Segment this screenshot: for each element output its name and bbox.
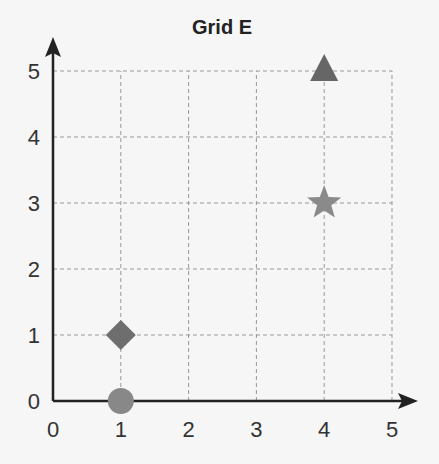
x-tick-label: 0 xyxy=(47,417,59,442)
x-tick-label: 1 xyxy=(115,417,127,442)
y-tick-labels: 012345 xyxy=(28,59,40,414)
chart-title: Grid E xyxy=(192,16,252,38)
y-tick-label: 5 xyxy=(28,59,40,84)
grid-lines xyxy=(53,71,392,401)
axes xyxy=(45,37,418,409)
data-points xyxy=(106,54,341,414)
diamond-marker-icon xyxy=(106,320,136,350)
x-tick-label: 5 xyxy=(386,417,398,442)
x-tick-label: 4 xyxy=(318,417,330,442)
x-tick-label: 3 xyxy=(250,417,262,442)
y-tick-label: 2 xyxy=(28,257,40,282)
y-tick-label: 3 xyxy=(28,191,40,216)
y-tick-label: 0 xyxy=(28,389,40,414)
star-marker-icon xyxy=(307,185,341,218)
x-tick-labels: 012345 xyxy=(47,417,398,442)
y-tick-label: 1 xyxy=(28,323,40,348)
grid-chart: Grid E 012345 012345 xyxy=(0,0,439,464)
circle-marker-icon xyxy=(108,388,134,414)
y-tick-label: 4 xyxy=(28,125,40,150)
x-tick-label: 2 xyxy=(182,417,194,442)
triangle-marker-icon xyxy=(310,54,338,81)
